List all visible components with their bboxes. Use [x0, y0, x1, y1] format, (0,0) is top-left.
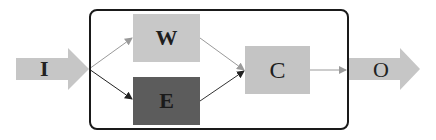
- node-w: W: [133, 14, 200, 62]
- output-label: O: [373, 57, 389, 83]
- node-c-label: C: [269, 57, 285, 84]
- node-c: C: [245, 46, 310, 94]
- input-arrow: [16, 48, 89, 90]
- node-e: E: [133, 77, 200, 125]
- system-frame: [89, 9, 349, 130]
- node-w-label: W: [156, 25, 178, 51]
- input-label: I: [40, 56, 49, 82]
- node-e-label: E: [159, 88, 174, 114]
